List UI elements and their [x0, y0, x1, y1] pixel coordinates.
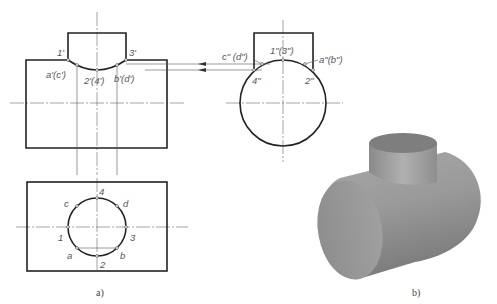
point-2: [96, 255, 99, 258]
point-bd: [116, 64, 119, 67]
top-view: 4 c d 1 3 a b 2: [16, 178, 188, 271]
point-1p: [67, 59, 70, 62]
label-3p: 3': [129, 47, 137, 58]
label-1p: 1': [57, 47, 65, 58]
label-b: b: [120, 250, 125, 261]
label-cdpp: c" (d"): [222, 51, 248, 62]
point-a: [76, 247, 79, 250]
label-2pp: 2": [304, 75, 314, 86]
arrow-left-icon: [198, 68, 206, 72]
point-3p: [125, 59, 128, 62]
arrow-left-icon: [198, 62, 206, 66]
point-abpp: [304, 63, 307, 66]
label-d: d: [123, 198, 129, 209]
label-c: c: [64, 198, 69, 209]
point-cdpp: [261, 63, 264, 66]
label-2: 2: [99, 259, 106, 270]
point-b: [116, 247, 119, 250]
point-24: [96, 69, 99, 72]
point-3: [125, 226, 128, 229]
point-1: [67, 226, 70, 229]
point-c: [76, 205, 79, 208]
label-a: a: [67, 250, 72, 261]
label-3: 3: [130, 232, 136, 243]
label-abpp: a"(b"): [319, 54, 343, 65]
point-d: [116, 205, 119, 208]
label-4pp: 4": [252, 75, 261, 86]
front-view: 1' 3' a'(c') 2'(4') b'(d'): [10, 12, 270, 175]
label-24: 2'(4'): [83, 75, 105, 86]
caption-a: a): [96, 287, 104, 299]
leader-ab: [305, 60, 318, 64]
label-ac: a'(c'): [46, 69, 66, 80]
branch-cylinder-top: [369, 133, 437, 153]
label-4: 4: [99, 186, 104, 197]
point-ac: [76, 64, 79, 67]
side-view: 1"(3") c" (d") a"(b") 4" 2": [222, 20, 343, 162]
label-bd: b'(d'): [114, 73, 135, 84]
isometric-render: [310, 133, 481, 285]
orthographic-projection-drawing: 1' 3' a'(c') 2'(4') b'(d') 1"(3") c" (d"…: [0, 0, 497, 304]
point-13pp: [282, 59, 285, 62]
point-4pp: [253, 69, 256, 72]
label-1: 1: [58, 232, 63, 243]
label-13pp: 1"(3"): [270, 45, 294, 56]
point-4: [96, 197, 99, 200]
caption-b: b): [412, 287, 420, 299]
point-2pp: [312, 69, 315, 72]
